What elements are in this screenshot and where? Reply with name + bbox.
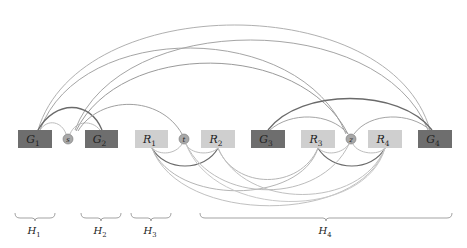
node-label: H3 (142, 225, 156, 239)
arc-g2-t (78, 104, 182, 134)
brace-shape (131, 213, 171, 221)
brace-shape (200, 213, 452, 221)
brace-h4: H4 (200, 213, 452, 239)
node-z[interactable]: z (346, 134, 356, 144)
arc-g2-z (76, 63, 348, 134)
node-g3[interactable]: G3 (251, 130, 285, 148)
node-label: H2 (92, 225, 106, 239)
arc-r1-r4 (152, 148, 385, 206)
brace-h3: H3 (131, 213, 171, 239)
arc-r3-r4 (318, 148, 385, 166)
node-g2[interactable]: G2 (85, 130, 118, 148)
node-s[interactable]: s (63, 134, 73, 144)
brace-shape (15, 213, 55, 221)
brace-shape (81, 213, 121, 221)
edge-arcs (38, 25, 432, 206)
node-r4[interactable]: R4 (368, 130, 402, 148)
diagram-canvas: G1sG2R1tR2G3R3zR4G4 H1H2H3H4 (0, 0, 467, 248)
arc-g2-g4 (75, 40, 428, 130)
node-r3[interactable]: R3 (301, 130, 335, 148)
group-braces: H1H2H3H4 (15, 213, 452, 239)
nodes: G1sG2R1tR2G3R3zR4G4 (18, 130, 452, 148)
node-label: H4 (317, 225, 331, 239)
node-r2[interactable]: R2 (201, 130, 235, 148)
node-r1[interactable]: R1 (135, 130, 168, 148)
node-label: H1 (26, 225, 40, 239)
node-g1[interactable]: G1 (18, 130, 52, 148)
node-t[interactable]: t (179, 134, 189, 144)
arc-g3-g4 (268, 99, 432, 131)
node-g4[interactable]: G4 (418, 130, 452, 148)
brace-h1: H1 (15, 213, 55, 239)
node-label: t (183, 136, 186, 144)
arc-r2-r3 (218, 148, 318, 180)
node-label: z (348, 136, 353, 144)
node-label: s (66, 136, 70, 144)
arc-g1-g2 (38, 108, 102, 131)
arc-t-z (186, 144, 349, 190)
brace-h2: H2 (81, 213, 121, 239)
